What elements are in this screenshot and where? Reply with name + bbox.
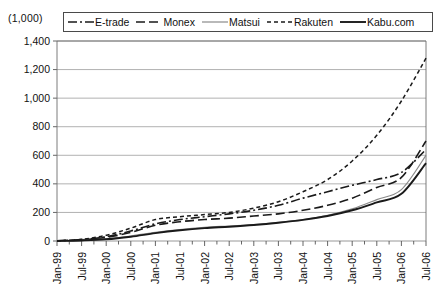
y-axis-tick-label: 1,000 (24, 92, 50, 104)
chart-legend: E-tradeMonexMatsuiRakutenKabu.com (63, 12, 433, 32)
legend-label: Rakuten (294, 16, 340, 28)
y-axis-unit-label: (1,000) (8, 12, 43, 24)
x-axis-tick-label: Jul-05 (371, 252, 383, 281)
legend-swatch-monex (136, 17, 162, 27)
legend-swatch-matsui (202, 17, 228, 27)
series-line-matsui[interactable] (57, 155, 426, 241)
legend-swatch-kabu-com (340, 17, 366, 27)
x-axis-tick-label: Jan-04 (297, 252, 309, 284)
y-axis-tick-label: 800 (32, 120, 50, 132)
chart-container: (1,000) E-tradeMonexMatsuiRakutenKabu.co… (0, 0, 437, 298)
legend-label: Matsui (229, 16, 267, 28)
legend-item-matsui[interactable]: Matsui (202, 16, 267, 28)
legend-swatch-rakuten (267, 17, 293, 27)
x-axis-tick-label: Jan-01 (149, 252, 161, 284)
legend-item-e-trade[interactable]: E-trade (68, 16, 136, 28)
x-axis-tick-label: Jan-06 (395, 252, 407, 284)
x-axis-tick-label: Jan-02 (199, 252, 211, 284)
legend-swatch-e-trade (68, 17, 94, 27)
y-axis-tick-label: 200 (32, 206, 50, 218)
legend-item-monex[interactable]: Monex (136, 16, 202, 28)
y-axis-tick-label: 1,400 (24, 36, 50, 47)
legend-label: Monex (163, 16, 202, 28)
series-line-rakuten[interactable] (57, 58, 426, 241)
x-axis-tick-label: Jul-04 (322, 252, 334, 281)
x-axis-tick-label: Jul-99 (76, 252, 88, 281)
x-axis-tick-label: Jan-99 (51, 252, 63, 284)
y-axis-tick-label: 1,200 (24, 63, 50, 75)
line-chart-svg: 02004006008001,0001,2001,400Jan-99Jul-99… (0, 36, 437, 298)
x-axis-tick-label: Jul-02 (223, 252, 235, 281)
x-axis-tick-label: Jul-03 (272, 252, 284, 281)
legend-item-rakuten[interactable]: Rakuten (267, 16, 340, 28)
series-line-e-trade[interactable] (57, 150, 426, 241)
x-axis-tick-label: Jan-00 (100, 252, 112, 284)
plot-area: 02004006008001,0001,2001,400Jan-99Jul-99… (0, 36, 437, 298)
legend-label: Kabu.com (367, 16, 421, 28)
legend-label: E-trade (95, 16, 136, 28)
legend-item-kabu-com[interactable]: Kabu.com (340, 16, 421, 28)
x-axis-tick-label: Jul-01 (174, 252, 186, 281)
x-axis-tick-label: Jan-03 (248, 252, 260, 284)
y-axis-tick-label: 400 (32, 177, 50, 189)
x-axis-tick-label: Jan-05 (346, 252, 358, 284)
x-axis-tick-label: Jul-06 (420, 252, 432, 281)
y-axis-tick-label: 0 (44, 235, 50, 247)
x-axis-tick-label: Jul-00 (125, 252, 137, 281)
y-axis-tick-label: 600 (32, 149, 50, 161)
